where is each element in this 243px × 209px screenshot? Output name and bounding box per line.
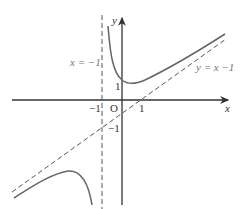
function-graph: y x O −1 1 1 −1 x = −1 y = x −1 [0, 0, 243, 209]
vertical-asymptote-label: x = −1 [69, 56, 101, 68]
tick-y-one: 1 [115, 80, 121, 92]
x-axis-label: x [224, 102, 230, 114]
origin-label: O [110, 102, 118, 114]
tick-x-one: 1 [139, 102, 145, 114]
curve-right-branch [108, 26, 225, 83]
oblique-asymptote-label: y = x −1 [195, 61, 234, 73]
tick-x-neg-one: −1 [89, 102, 101, 114]
y-axis-label: y [111, 14, 117, 26]
oblique-asymptote [12, 39, 226, 192]
tick-y-neg-one: −1 [108, 122, 120, 134]
curve-left-branch [14, 171, 92, 205]
